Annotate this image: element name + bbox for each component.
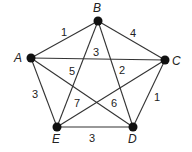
edge-B-D xyxy=(98,21,133,127)
node-E xyxy=(53,123,62,132)
edge-weight-A-B: 1 xyxy=(61,26,67,38)
edge-A-C xyxy=(31,58,165,60)
edge-weight-A-C: 3 xyxy=(93,46,99,58)
edge-weight-C-E: 6 xyxy=(111,97,117,109)
node-label-A: A xyxy=(13,51,22,65)
node-B xyxy=(94,17,103,26)
node-label-B: B xyxy=(93,1,101,15)
node-A xyxy=(27,54,36,63)
edge-weight-C-D: 1 xyxy=(154,91,160,103)
node-D xyxy=(129,123,138,132)
edge-weight-E-D: 3 xyxy=(89,132,95,144)
edge-weight-B-D: 2 xyxy=(119,64,125,76)
edge-A-D xyxy=(31,58,133,127)
node-label-E: E xyxy=(52,132,61,146)
edge-weight-B-E: 5 xyxy=(69,65,75,77)
node-C xyxy=(161,56,170,65)
weighted-graph: 1435237613ABCDE xyxy=(0,0,192,152)
node-label-D: D xyxy=(128,132,137,146)
edge-weight-A-D: 7 xyxy=(74,97,80,109)
edge-weight-A-E: 3 xyxy=(32,88,38,100)
edge-weight-B-C: 4 xyxy=(130,27,136,39)
node-label-C: C xyxy=(172,54,181,68)
